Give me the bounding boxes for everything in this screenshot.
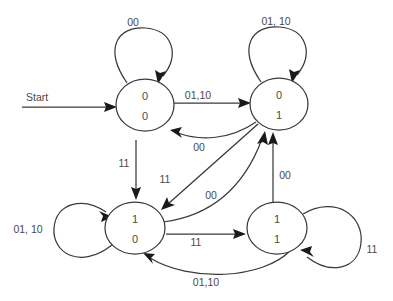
edge-s00-to-s10-label: 11 [119,157,130,169]
edge-s11-to-s10-arrow-head [143,253,155,264]
edge-s01-to-s00-label: 00 [193,141,205,153]
start-label: Start [26,91,48,103]
self-loop-s01 [249,27,306,83]
edge-s00-to-s10 [131,140,141,200]
edge-s11-to-s01-label: 00 [279,169,291,181]
state-s01-ellipse[interactable] [250,78,308,130]
state-s10-bottom-bit: 0 [132,233,138,245]
edge-s10-to-s01 [163,131,268,222]
state-node-s00[interactable]: 0 0 [116,79,174,131]
self-loop-s11-label: 11 [367,243,378,255]
self-loop-s11 [300,207,361,268]
state-diagram-canvas: Start 00 01, 10 01, 10 11 01,1 [0,0,393,301]
self-loop-s11-arrow-head [300,246,314,257]
state-s01-bottom-bit: 1 [276,109,282,121]
state-s00-top-bit: 0 [142,90,148,102]
state-s00-ellipse[interactable] [116,79,174,131]
edge-s10-to-s11-label: 11 [191,236,202,248]
self-loop-s10-label: 01, 10 [13,223,42,235]
edge-s00-to-s01-label: 01,10 [185,89,211,101]
edge-s10-to-s01-arrow-head [257,131,268,145]
state-machine-diagram: Start 00 01, 10 01, 10 11 01,1 [0,0,393,301]
edge-s11-to-s10-label: 01,10 [193,276,219,288]
state-node-s01[interactable]: 0 1 [250,78,308,130]
edge-s01-to-s00 [170,122,256,138]
state-s11-ellipse[interactable] [247,202,307,254]
self-loop-s10-path [54,203,112,257]
self-loop-s00 [115,28,172,84]
edge-s01-to-s10-label: 11 [160,173,171,185]
state-node-s11[interactable]: 1 1 [247,202,307,254]
edge-s11-to-s01 [268,132,278,202]
start-arrow [22,102,117,112]
state-s01-top-bit: 0 [276,89,282,101]
state-s00-bottom-bit: 0 [142,110,148,122]
state-s10-ellipse[interactable] [105,202,165,254]
edge-s10-to-s11 [166,229,246,239]
self-loop-s10 [54,203,113,257]
edge-s10-to-s01-label: 00 [205,189,217,201]
state-s11-bottom-bit: 1 [274,233,280,245]
state-s11-top-bit: 1 [274,213,280,225]
state-s10-top-bit: 1 [132,213,138,225]
edge-s01-to-s00-arrow-head [170,127,182,138]
self-loop-s01-label: 01, 10 [261,15,290,27]
state-node-s10[interactable]: 1 0 [105,202,165,254]
edge-s10-to-s01-path [163,139,262,222]
self-loop-s00-label: 00 [127,16,139,28]
self-loop-s11-path [303,207,361,268]
